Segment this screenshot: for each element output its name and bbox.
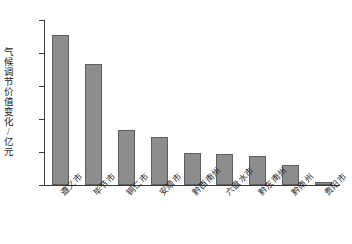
y-tick-mark <box>39 53 44 54</box>
y-tick-mark <box>39 86 44 87</box>
y-axis-line <box>44 20 45 185</box>
bar <box>52 35 69 185</box>
y-axis-title: 气候调节价值变化/亿元 <box>1 26 15 178</box>
x-tick-label: 贵阳市 <box>321 170 349 198</box>
y-tick-mark <box>39 185 44 186</box>
y-tick-mark <box>39 119 44 120</box>
y-tick-mark <box>39 152 44 153</box>
bar-chart: 气候调节价值变化/亿元 050100150200250 遵义市毕节市铜仁市安顺市… <box>0 0 352 244</box>
bar <box>151 137 168 185</box>
y-tick-mark <box>39 20 44 21</box>
bar <box>118 130 135 185</box>
bar <box>85 64 102 185</box>
plot-area: 050100150200250 遵义市毕节市铜仁市安顺市黔西南州六盘水市黔东南州… <box>44 20 340 185</box>
